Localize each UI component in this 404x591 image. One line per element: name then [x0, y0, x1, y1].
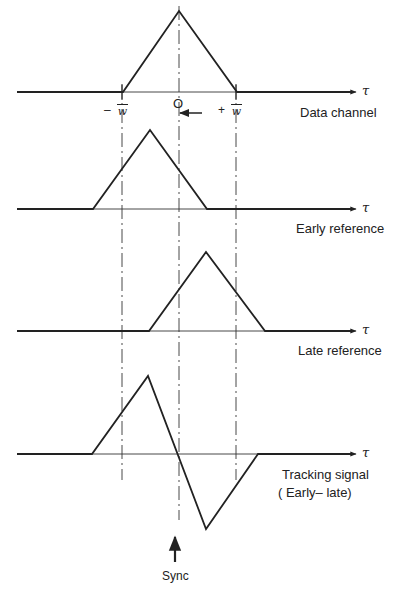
tracking-signal-sublabel: ( Early– late) — [278, 486, 352, 499]
minus-sign: – — [104, 104, 111, 116]
early-reference-trace — [17, 130, 352, 209]
late-reference-trace — [17, 252, 352, 331]
data-channel-label: Data channel — [300, 106, 377, 119]
minus-fraction: 1 w — [116, 96, 129, 118]
reference-lines — [122, 6, 236, 520]
plus-sign: + — [218, 104, 225, 116]
tau-label-tracking: τ — [362, 446, 369, 459]
tau-label-early: τ — [362, 201, 369, 214]
fraction-denominator: w — [118, 105, 127, 118]
tracking-signal-trace — [17, 376, 352, 529]
diagram-canvas — [0, 0, 404, 591]
plus-fraction: 1 w — [230, 96, 243, 118]
zero-label: O — [173, 97, 183, 110]
tau-label-late: τ — [362, 323, 369, 336]
early-late-tracking-diagram: τ τ τ τ Data channel Early reference Lat… — [0, 0, 404, 591]
fraction-denominator: w — [232, 105, 241, 118]
late-reference-label: Late reference — [298, 344, 382, 357]
data-channel-trace — [17, 11, 352, 92]
tau-label-data: τ — [362, 84, 369, 97]
traces — [17, 11, 352, 529]
tracking-signal-label: Tracking signal — [282, 468, 369, 481]
sync-label: Sync — [162, 570, 189, 582]
early-reference-label: Early reference — [296, 222, 384, 235]
trace-axes — [17, 92, 356, 454]
